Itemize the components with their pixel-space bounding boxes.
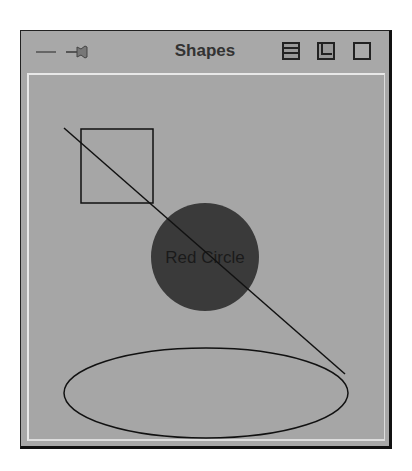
shade-icon[interactable] bbox=[281, 41, 301, 61]
title-bar[interactable]: Shapes bbox=[21, 31, 389, 69]
line-shape[interactable] bbox=[64, 128, 345, 374]
drawing-canvas[interactable]: Red Circle bbox=[27, 73, 385, 441]
shapes-canvas: Red Circle bbox=[29, 75, 385, 439]
ellipse-shape[interactable] bbox=[64, 348, 348, 438]
shapes-window: Shapes Red Circle bbox=[20, 30, 392, 449]
minimize-icon[interactable] bbox=[316, 41, 336, 61]
maximize-icon[interactable] bbox=[352, 41, 372, 61]
square-shape[interactable] bbox=[81, 129, 153, 203]
